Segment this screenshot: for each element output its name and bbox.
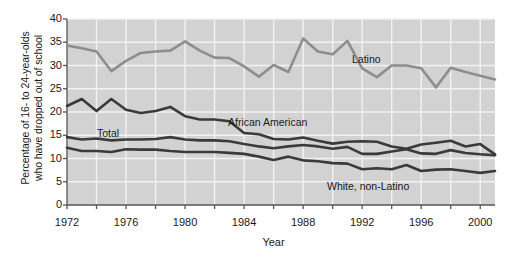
series-label-total: Total [97, 127, 119, 139]
x-tick-label: 2000 [468, 216, 492, 228]
y-tick-label: 30 [36, 59, 62, 71]
x-tick-label: 1984 [232, 216, 256, 228]
series-label-african-american: African American [228, 116, 307, 128]
y-tick-label: 10 [36, 152, 62, 164]
y-tick-label: 35 [36, 35, 62, 47]
series-label-white-non-latino: White, non-Latino [327, 180, 409, 192]
x-tick-label: 1996 [409, 216, 433, 228]
x-tick-label: 1976 [114, 216, 138, 228]
series-label-latino: Latino [352, 53, 381, 65]
y-tick-label: 20 [36, 105, 62, 117]
x-axis-label: Year [0, 236, 525, 248]
y-tick-label: 40 [36, 12, 62, 24]
x-tick-label: 1980 [173, 216, 197, 228]
y-tick-label: 5 [36, 175, 62, 187]
x-tick-label: 1972 [55, 216, 79, 228]
x-axis-label-text: Year [262, 236, 284, 248]
x-tick-label: 1988 [291, 216, 315, 228]
chart-root: Percentage of 16- to 24-year-olds who ha… [0, 0, 525, 264]
y-tick-label: 15 [36, 128, 62, 140]
y-axis-label-line1: Percentage of 16- to 24-year-olds [19, 8, 32, 208]
x-axis-ticks: 19721976198019841988199219962000 [0, 208, 525, 228]
y-tick-label: 25 [36, 82, 62, 94]
x-tick-label: 1992 [350, 216, 374, 228]
